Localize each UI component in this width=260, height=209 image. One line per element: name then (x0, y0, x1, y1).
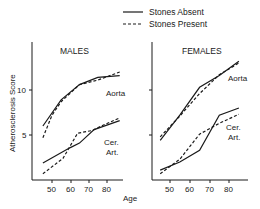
males-panel: 10 5 50 60 70 80 MALES Aorta Cer. Art. (17, 42, 126, 194)
x-axis-label: Age (123, 194, 138, 203)
females-cer-label: Cer. (226, 123, 241, 132)
males-xtick-70: 70 (84, 185, 93, 194)
chart-canvas: Stones Absent Stones Present Atheroscler… (0, 0, 260, 209)
males-cer-label: Cer. (104, 138, 119, 147)
ytick-10: 10 (17, 86, 26, 95)
females-xtick-60: 60 (185, 185, 194, 194)
aorta-stones-present-line (43, 72, 120, 138)
legend: Stones Absent Stones Present (123, 7, 208, 29)
males-aorta-label: Aorta (106, 89, 126, 98)
legend-label-present: Stones Present (149, 19, 208, 29)
ytick-5: 5 (22, 131, 27, 140)
females-xtick-80: 80 (224, 185, 233, 194)
females-title: FEMALES (182, 46, 222, 56)
males-series (43, 72, 120, 174)
females-art-label: Art. (228, 133, 240, 142)
females-xtick-70: 70 (205, 185, 214, 194)
males-title: MALES (60, 46, 89, 56)
males-xtick-80: 80 (102, 185, 111, 194)
aorta-stones-absent-line (43, 76, 120, 126)
males-art-label: Art. (106, 148, 118, 157)
females-xtick-50: 50 (165, 185, 174, 194)
females-panel: 50 60 70 80 FEMALES Aorta Cer. Art. (149, 42, 248, 194)
y-axis-label: Atherosclerosis Score (8, 74, 17, 152)
legend-label-absent: Stones Absent (149, 7, 204, 17)
males-xtick-50: 50 (47, 185, 56, 194)
females-aorta-label: Aorta (228, 74, 248, 83)
males-xtick-60: 60 (66, 185, 75, 194)
